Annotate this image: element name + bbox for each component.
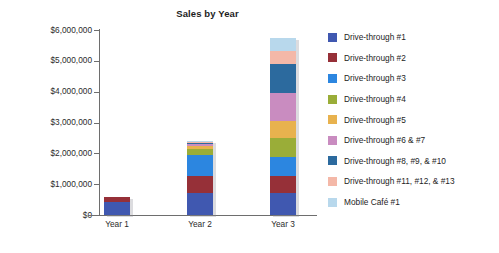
y-axis-tick-label: $4,000,000 [6, 86, 92, 96]
legend-swatch-icon [328, 33, 337, 42]
legend-swatch-icon [328, 136, 337, 145]
y-axis-tick-label: $3,000,000 [6, 117, 92, 127]
legend-item-label: Drive-through #2 [344, 53, 406, 63]
bar-segment[interactable] [270, 157, 296, 176]
legend-item-label: Drive-through #5 [344, 115, 406, 125]
chart-title: Sales by Year [100, 8, 315, 19]
legend-swatch-icon [328, 177, 337, 186]
legend-item[interactable]: Mobile Café #1 [328, 192, 499, 213]
x-axis-tick-label: Year 3 [243, 219, 323, 229]
bar-segment[interactable] [104, 202, 130, 215]
bar-segment[interactable] [270, 138, 296, 157]
legend-item[interactable]: Drive-through #2 [328, 48, 499, 69]
y-axis-tick-label: $0 [6, 210, 92, 220]
legend-swatch-icon [328, 53, 337, 62]
y-axis-tick-label: $2,000,000 [6, 148, 92, 158]
legend-item[interactable]: Drive-through #4 [328, 89, 499, 110]
legend-item[interactable]: Drive-through #1 [328, 27, 499, 48]
legend-item-label: Drive-through #1 [344, 32, 406, 42]
bar-segment[interactable] [187, 193, 213, 215]
x-axis-tick-label: Year 2 [160, 219, 240, 229]
bar-segment[interactable] [270, 64, 296, 93]
y-axis-tick-label: $1,000,000 [6, 179, 92, 189]
legend-item-label: Drive-through #6 & #7 [344, 135, 425, 145]
x-axis-tick-label: Year 1 [77, 219, 157, 229]
y-axis-labels: $6,000,000$5,000,000$4,000,000$3,000,000… [0, 0, 92, 253]
legend-item[interactable]: Drive-through #6 & #7 [328, 130, 499, 151]
y-axis-tick-label: $5,000,000 [6, 55, 92, 65]
bar-segment[interactable] [187, 176, 213, 193]
legend-swatch-icon [328, 115, 337, 124]
bar-segment[interactable] [270, 93, 296, 121]
bar-year-2[interactable] [187, 141, 213, 215]
legend-item-label: Mobile Café #1 [344, 197, 400, 207]
bar-segment[interactable] [270, 176, 296, 193]
bar-year-1[interactable] [104, 197, 130, 215]
legend-swatch-icon [328, 198, 337, 207]
bar-segment[interactable] [270, 121, 296, 138]
bar-year-3[interactable] [270, 38, 296, 215]
legend-item[interactable]: Drive-through #3 [328, 68, 499, 89]
legend-item-label: Drive-through #8, #9, & #10 [344, 156, 446, 166]
plot-area [100, 30, 315, 215]
legend-item-label: Drive-through #3 [344, 73, 406, 83]
bar-segment[interactable] [270, 38, 296, 51]
legend-swatch-icon [328, 156, 337, 165]
legend-item[interactable]: Drive-through #11, #12, & #13 [328, 171, 499, 192]
legend-swatch-icon [328, 74, 337, 83]
legend-item[interactable]: Drive-through #8, #9, & #10 [328, 151, 499, 172]
y-axis-tick-label: $6,000,000 [6, 25, 92, 35]
bar-segment[interactable] [270, 193, 296, 215]
bar-segment[interactable] [187, 155, 213, 177]
bar-segment[interactable] [270, 51, 296, 64]
chart-screenshot: Sales by Year $6,000,000$5,000,000$4,000… [0, 0, 499, 253]
chart-legend: Drive-through #1Drive-through #2Drive-th… [328, 27, 499, 212]
legend-item-label: Drive-through #11, #12, & #13 [344, 176, 455, 186]
legend-item[interactable]: Drive-through #5 [328, 109, 499, 130]
legend-swatch-icon [328, 95, 337, 104]
legend-item-label: Drive-through #4 [344, 94, 406, 104]
